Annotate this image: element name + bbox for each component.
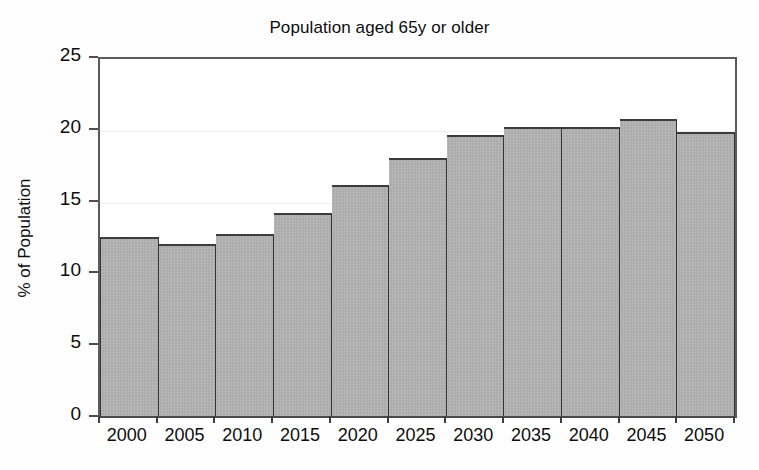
chart-title: Population aged 65y or older [0, 18, 759, 38]
y-axis-tick [89, 415, 98, 417]
x-axis-tick [560, 416, 562, 423]
y-axis-tick-label: 10 [11, 259, 81, 281]
bar-texture [274, 215, 331, 418]
bar-texture [620, 121, 677, 418]
x-axis-tick [271, 416, 273, 423]
bar-texture [447, 137, 504, 418]
y-axis-tick-label: 5 [11, 331, 81, 353]
chart-figure: Population aged 65y or older % of Popula… [0, 0, 759, 470]
x-axis-line [98, 416, 735, 418]
x-axis-tick [156, 416, 158, 423]
bar-series [100, 59, 735, 418]
x-axis-tick [675, 416, 677, 423]
bar[interactable] [447, 135, 505, 418]
bar[interactable] [100, 237, 159, 418]
y-axis-tick [89, 128, 98, 130]
bar-texture [562, 129, 619, 419]
y-axis-title: % of Population [15, 128, 35, 348]
y-axis-tick [89, 56, 98, 58]
bar[interactable] [677, 132, 735, 418]
bar-texture [159, 246, 216, 418]
bar-texture [389, 160, 446, 418]
bar-texture [504, 129, 561, 419]
y-axis-tick-label: 25 [11, 44, 81, 66]
bar-texture [332, 187, 389, 418]
bar-texture [677, 134, 734, 418]
bar[interactable] [159, 244, 217, 418]
bar[interactable] [216, 234, 274, 418]
y-axis-tick-label: 20 [11, 116, 81, 138]
y-axis-tick [89, 271, 98, 273]
x-axis-tick [444, 416, 446, 423]
bar[interactable] [332, 185, 390, 418]
bar[interactable] [389, 158, 447, 418]
y-axis-tick-label: 0 [11, 403, 81, 425]
x-axis-tick [502, 416, 504, 423]
y-axis-tick [89, 343, 98, 345]
x-axis-tick [213, 416, 215, 423]
x-axis-tick [387, 416, 389, 423]
bar-texture [101, 239, 158, 418]
x-axis-tick [98, 416, 100, 423]
x-axis-tick-label: 2050 [664, 425, 744, 446]
x-axis-tick [329, 416, 331, 423]
y-axis-tick-label: 15 [11, 188, 81, 210]
x-axis-tick [733, 416, 735, 423]
x-axis-tick [618, 416, 620, 423]
bar[interactable] [562, 127, 620, 419]
y-axis-tick [89, 200, 98, 202]
plot-area [98, 57, 737, 418]
bar[interactable] [504, 127, 562, 419]
bar[interactable] [274, 213, 332, 418]
bar-texture [216, 236, 273, 418]
bar[interactable] [620, 119, 678, 418]
